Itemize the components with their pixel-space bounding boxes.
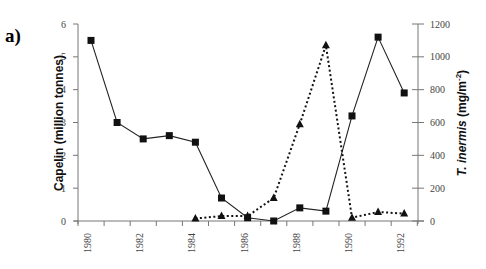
square-marker-icon <box>166 132 173 139</box>
panel-label: a) <box>5 25 21 47</box>
square-marker-icon <box>88 37 95 44</box>
left-tick-label: 0 <box>61 216 66 227</box>
triangle-marker-icon <box>191 214 199 222</box>
capelin-line <box>91 37 404 221</box>
triangle-marker-icon <box>322 41 330 49</box>
series-layer <box>88 34 409 225</box>
square-marker-icon <box>322 208 329 215</box>
x-tick-label: 1980 <box>82 233 93 253</box>
x-tick-label: 1986 <box>239 233 250 253</box>
right-tick-label: 0 <box>430 216 435 227</box>
x-tick-label: 1984 <box>186 233 197 253</box>
triangle-marker-icon <box>374 207 382 215</box>
square-marker-icon <box>218 195 225 202</box>
square-marker-icon <box>375 34 382 41</box>
right-tick-label: 400 <box>430 150 445 161</box>
x-tick-label: 1992 <box>395 233 406 253</box>
dual-axis-line-chart: a) 0123456 020040060080010001200 1980198… <box>0 0 486 269</box>
square-marker-icon <box>270 218 277 225</box>
triangle-marker-icon <box>270 194 278 202</box>
square-marker-icon <box>140 135 147 142</box>
square-marker-icon <box>114 119 121 126</box>
right-tick-label: 600 <box>430 117 445 128</box>
right-tick-label: 800 <box>430 84 445 95</box>
x-tick-label: 1988 <box>291 233 302 253</box>
triangle-marker-icon <box>218 212 226 220</box>
right-tick-label: 200 <box>430 183 445 194</box>
triangle-marker-icon <box>296 120 304 128</box>
square-marker-icon <box>349 112 356 119</box>
square-marker-icon <box>296 204 303 211</box>
left-tick-label: 6 <box>61 19 66 30</box>
square-marker-icon <box>401 89 408 96</box>
square-marker-icon <box>192 139 199 146</box>
right-tick-label: 1000 <box>430 51 450 62</box>
left-y-axis-title: Capelin (million tonnes) <box>52 55 66 191</box>
right-tick-label: 1200 <box>430 19 450 30</box>
x-axis-ticks: 1980198219841986198819901992 <box>78 221 417 253</box>
triangle-marker-icon <box>348 213 356 221</box>
x-tick-label: 1982 <box>134 233 145 253</box>
right-y-axis-title: T. inermis (mg/m-2) <box>454 70 469 176</box>
axes <box>74 24 424 224</box>
x-tick-label: 1990 <box>343 233 354 253</box>
t-inermis-line <box>195 45 404 218</box>
